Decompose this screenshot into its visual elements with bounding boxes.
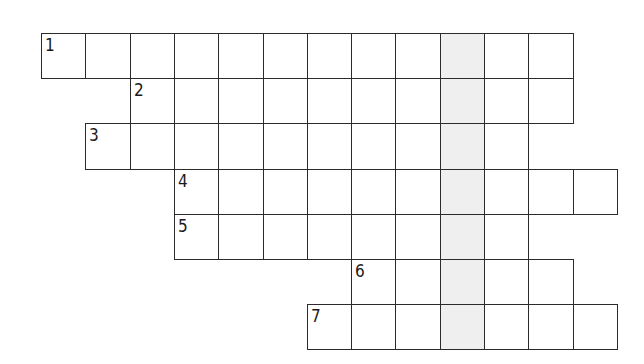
letter-cell[interactable]: [307, 169, 352, 215]
letter-cell[interactable]: [528, 78, 574, 124]
letter-cell[interactable]: [351, 304, 396, 350]
letter-cell[interactable]: [263, 33, 308, 79]
letter-cell[interactable]: [528, 304, 574, 350]
letter-cell[interactable]: 4: [174, 169, 219, 215]
letter-cell[interactable]: [307, 214, 352, 260]
clue-number: 1: [45, 37, 55, 54]
letter-cell[interactable]: [395, 33, 441, 79]
letter-cell[interactable]: [85, 33, 131, 79]
letter-cell[interactable]: [528, 259, 574, 305]
letter-cell[interactable]: [351, 78, 396, 124]
letter-cell[interactable]: [174, 78, 219, 124]
clue-number: 4: [178, 173, 188, 190]
letter-cell[interactable]: [351, 123, 396, 170]
keyword-cell[interactable]: [440, 214, 485, 260]
letter-cell[interactable]: 5: [174, 214, 219, 260]
letter-cell[interactable]: [395, 78, 441, 124]
clue-number: 2: [134, 82, 144, 99]
letter-cell[interactable]: [484, 33, 529, 79]
letter-cell[interactable]: 7: [307, 304, 352, 350]
letter-cell[interactable]: [263, 123, 308, 170]
keyword-cell[interactable]: [440, 259, 485, 305]
letter-cell[interactable]: [263, 78, 308, 124]
letter-cell[interactable]: [528, 33, 574, 79]
letter-cell[interactable]: [218, 33, 264, 79]
clue-number: 7: [311, 308, 321, 325]
letter-cell[interactable]: [573, 304, 618, 350]
keyword-cell[interactable]: [440, 33, 485, 79]
letter-cell[interactable]: [395, 214, 441, 260]
letter-cell[interactable]: [573, 169, 618, 215]
letter-cell[interactable]: [307, 123, 352, 170]
letter-cell[interactable]: [263, 214, 308, 260]
letter-cell[interactable]: [218, 123, 264, 170]
keyword-cell[interactable]: [440, 123, 485, 170]
letter-cell[interactable]: 6: [351, 259, 396, 305]
letter-cell[interactable]: [130, 33, 175, 79]
crossword-grid: 1234567: [0, 0, 644, 364]
keyword-cell[interactable]: [440, 78, 485, 124]
letter-cell[interactable]: [307, 33, 352, 79]
letter-cell[interactable]: [218, 169, 264, 215]
letter-cell[interactable]: [351, 214, 396, 260]
letter-cell[interactable]: [351, 33, 396, 79]
letter-cell[interactable]: 1: [41, 33, 86, 79]
letter-cell[interactable]: [484, 259, 529, 305]
letter-cell[interactable]: [263, 169, 308, 215]
clue-number: 5: [178, 218, 188, 235]
letter-cell[interactable]: [484, 169, 529, 215]
letter-cell[interactable]: [218, 78, 264, 124]
clue-number: 6: [355, 263, 365, 280]
letter-cell[interactable]: [484, 304, 529, 350]
letter-cell[interactable]: [484, 214, 529, 260]
letter-cell[interactable]: [307, 78, 352, 124]
letter-cell[interactable]: [484, 78, 529, 124]
letter-cell[interactable]: 3: [85, 123, 131, 170]
letter-cell[interactable]: [528, 169, 574, 215]
letter-cell[interactable]: [395, 259, 441, 305]
letter-cell[interactable]: [174, 33, 219, 79]
letter-cell[interactable]: 2: [130, 78, 175, 124]
letter-cell[interactable]: [395, 123, 441, 170]
letter-cell[interactable]: [130, 123, 175, 170]
clue-number: 3: [89, 127, 99, 144]
letter-cell[interactable]: [174, 123, 219, 170]
letter-cell[interactable]: [351, 169, 396, 215]
keyword-cell[interactable]: [440, 304, 485, 350]
letter-cell[interactable]: [395, 304, 441, 350]
letter-cell[interactable]: [395, 169, 441, 215]
keyword-cell[interactable]: [440, 169, 485, 215]
letter-cell[interactable]: [218, 214, 264, 260]
letter-cell[interactable]: [484, 123, 529, 170]
